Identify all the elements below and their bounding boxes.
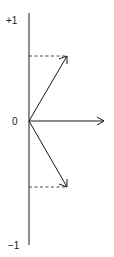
- axis-label-bottom: −1: [8, 240, 20, 251]
- horizontal-vector: [29, 117, 104, 125]
- lower-vector: [29, 121, 67, 187]
- axis-label-origin: 0: [12, 116, 18, 127]
- upper-vector: [29, 56, 67, 121]
- vector-diagram: +1 0 −1: [0, 0, 114, 257]
- axis-label-top: +1: [6, 15, 18, 26]
